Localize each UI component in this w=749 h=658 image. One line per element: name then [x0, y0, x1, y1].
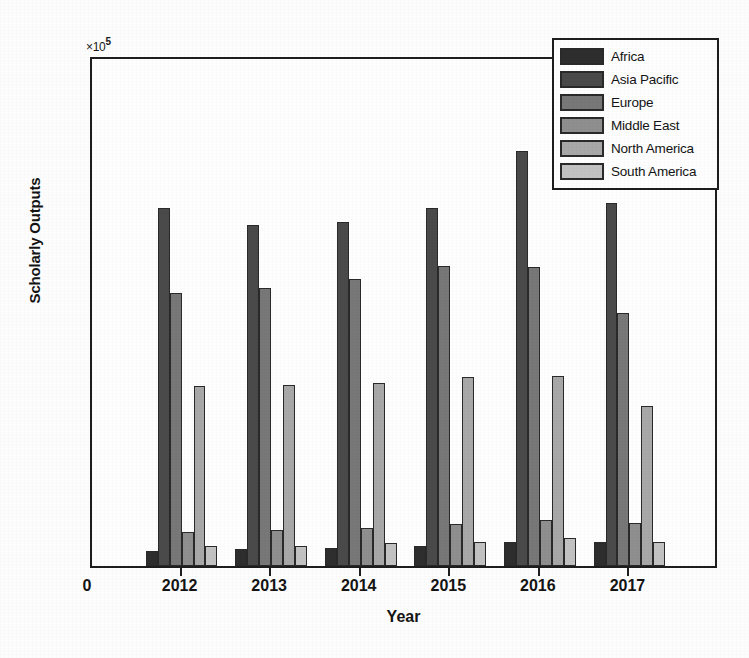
bar	[450, 524, 462, 566]
bar	[337, 222, 349, 566]
legend[interactable]: AfricaAsia PacificEuropeMiddle EastNorth…	[552, 38, 719, 190]
x-axis-tick-label: 2017	[587, 577, 667, 595]
x-axis-title: Year	[90, 608, 717, 626]
legend-item[interactable]: South America	[560, 160, 712, 183]
bar	[474, 542, 486, 566]
bar	[516, 151, 528, 566]
x-axis-tick-label: 2014	[319, 577, 399, 595]
legend-item[interactable]: Middle East	[560, 114, 712, 137]
x-axis-tick-mark	[269, 568, 271, 576]
bar	[552, 376, 564, 566]
x-axis-tick-label: 2012	[140, 577, 220, 595]
x-axis-tick-label: 2013	[229, 577, 309, 595]
x-axis-tick-label: 2016	[498, 577, 578, 595]
legend-label: North America	[611, 141, 694, 156]
bar	[170, 293, 182, 566]
bar	[540, 520, 552, 566]
x-axis-tick-mark	[538, 568, 540, 576]
legend-swatch-icon	[560, 140, 604, 157]
legend-item[interactable]: Africa	[560, 45, 712, 68]
bar	[504, 542, 516, 566]
bar	[325, 548, 337, 566]
y-axis-exponent-multiplier: ×10	[86, 40, 105, 54]
bar	[361, 528, 373, 566]
x-axis-origin-label: 0	[72, 577, 102, 595]
legend-swatch-icon	[560, 94, 604, 111]
bar	[617, 313, 629, 566]
bar	[295, 546, 307, 566]
bar	[158, 208, 170, 566]
x-axis-tick-mark	[627, 568, 629, 576]
bar	[414, 546, 426, 566]
figure-canvas: ×105 Scholarly Outputs 00.20.40.60.811.2…	[0, 0, 749, 658]
legend-swatch-icon	[560, 71, 604, 88]
legend-item[interactable]: North America	[560, 137, 712, 160]
bar	[606, 203, 618, 566]
x-axis-tick-mark	[180, 568, 182, 576]
bar	[426, 208, 438, 566]
bar	[373, 383, 385, 566]
bar	[146, 551, 158, 566]
legend-item[interactable]: Europe	[560, 91, 712, 114]
legend-swatch-icon	[560, 117, 604, 134]
bar	[235, 549, 247, 566]
legend-label: South America	[611, 164, 696, 179]
bar	[438, 266, 450, 566]
legend-item[interactable]: Asia Pacific	[560, 68, 712, 91]
legend-label: Middle East	[611, 118, 679, 133]
bar	[653, 542, 665, 566]
y-axis-exponent: ×105	[86, 36, 111, 54]
bar	[528, 267, 540, 566]
legend-swatch-icon	[560, 163, 604, 180]
legend-label: Africa	[611, 49, 644, 64]
bar	[462, 377, 474, 566]
bar	[194, 386, 206, 566]
x-axis-tick-mark	[448, 568, 450, 576]
x-axis-tick-label: 2015	[408, 577, 488, 595]
bar	[641, 406, 653, 566]
bar	[385, 543, 397, 566]
bar	[349, 279, 361, 566]
bar	[283, 385, 295, 566]
bar	[205, 546, 217, 566]
bar	[629, 523, 641, 566]
bar	[247, 225, 259, 566]
legend-label: Asia Pacific	[611, 72, 678, 87]
bar	[271, 530, 283, 566]
bar	[259, 288, 271, 566]
y-axis-title: Scholarly Outputs	[26, 141, 43, 341]
x-axis-tick-mark	[359, 568, 361, 576]
bar	[182, 532, 194, 566]
bar	[564, 538, 576, 566]
legend-label: Europe	[611, 95, 653, 110]
legend-swatch-icon	[560, 48, 604, 65]
bar	[594, 542, 606, 566]
y-axis-exponent-power: 5	[105, 36, 110, 47]
